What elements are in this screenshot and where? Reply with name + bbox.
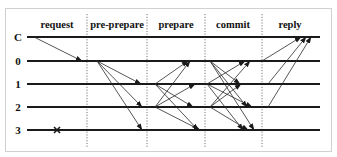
- phase-label-reply: reply: [278, 19, 302, 30]
- phase-label-pre-prepare: pre-prepare: [90, 19, 144, 30]
- node-label-2: 2: [15, 101, 21, 113]
- node-label-0: 0: [15, 55, 21, 67]
- phase-label-request: request: [40, 19, 74, 30]
- pbft-diagram: requestpre-preparepreparecommitreply C01…: [0, 0, 337, 157]
- phase-label-prepare: prepare: [158, 19, 194, 30]
- node-label-3: 3: [15, 124, 21, 136]
- node-label-1: 1: [15, 78, 21, 90]
- phase-label-commit: commit: [216, 19, 250, 30]
- node-label-C: C: [14, 31, 22, 43]
